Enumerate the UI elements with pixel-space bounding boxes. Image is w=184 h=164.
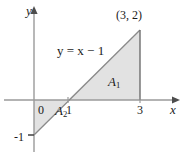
point-coordinate-label: (3, 2): [116, 9, 142, 21]
y-tick-label-neg1: -1: [14, 131, 24, 143]
equation-label: y = x − 1: [57, 44, 104, 57]
coordinate-plane-svg: [0, 0, 184, 164]
region-a2-letter: A: [55, 103, 63, 118]
x-axis-label: x: [170, 103, 176, 116]
region-a1-letter: A: [108, 74, 116, 89]
math-figure-line-areas: y x (3, 2) y = x − 1 A1 A2 0 1 3 -1: [0, 0, 184, 164]
region-a1-subscript: 1: [116, 80, 120, 90]
y-axis-label: y: [26, 4, 32, 17]
region-a1-label: A1: [108, 75, 120, 90]
origin-tick-label: 0: [38, 104, 44, 116]
x-tick-label-3: 3: [137, 104, 143, 116]
x-tick-label-1: 1: [66, 104, 72, 116]
